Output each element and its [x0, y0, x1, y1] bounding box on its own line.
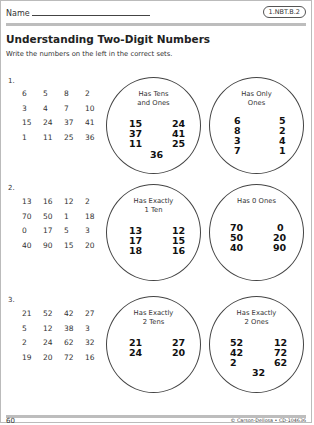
grid-cell: 5 — [22, 324, 43, 335]
problem-number-2: 2. — [8, 184, 15, 192]
grid-cell: 27 — [85, 309, 106, 320]
grid-cell: 36 — [85, 133, 106, 144]
name-line[interactable] — [32, 8, 150, 16]
set-circle-exactly-1-ten[interactable]: Has Exactly 1 Ten 13 17 18 12 15 16 — [106, 184, 201, 281]
grid-cell: 15 — [22, 118, 43, 129]
grid-cell: 13 — [22, 197, 43, 208]
set-number: 20 — [172, 348, 185, 358]
grid-cell: 16 — [43, 197, 64, 208]
grid-cell: 70 — [22, 212, 43, 223]
set-number: 25 — [172, 139, 185, 149]
grid-cell: 20 — [43, 353, 64, 364]
grid-cell: 32 — [85, 338, 106, 349]
page-title: Understanding Two-Digit Numbers — [6, 33, 210, 45]
grid-cell: 6 — [22, 89, 43, 100]
grid-cell: 3 — [22, 104, 43, 115]
standard-badge: 1.NBT.B.2 — [263, 6, 306, 18]
set-number: 36 — [150, 150, 163, 160]
problem-number-3: 3. — [8, 296, 15, 304]
set-circle-only-ones[interactable]: Has Only Ones 6 8 3 7 5 2 4 1 — [209, 77, 304, 174]
grid-cell: 2 — [85, 89, 106, 100]
set-label: Has Exactly 1 Ten — [107, 197, 200, 215]
set-circle-0-ones[interactable]: Has 0 Ones 70 50 40 0 20 90 — [209, 184, 304, 281]
grid-cell: 40 — [22, 241, 43, 252]
set-number: 2 — [230, 358, 237, 368]
grid-cell: 62 — [64, 338, 85, 349]
grid-cell: 2 — [22, 338, 43, 349]
set-number: 16 — [172, 246, 185, 256]
grid-cell: 5 — [64, 226, 85, 237]
grid-cell: 0 — [22, 226, 43, 237]
grid-cell: 25 — [64, 133, 85, 144]
grid-cell: 50 — [43, 212, 64, 223]
grid-cell: 20 — [85, 241, 106, 252]
grid-cell: 5 — [43, 89, 64, 100]
grid-cell: 38 — [64, 324, 85, 335]
set-number: 62 — [274, 358, 287, 368]
grid-cell: 1 — [64, 212, 85, 223]
grid-cell: 11 — [43, 133, 64, 144]
name-field[interactable]: Name — [6, 8, 150, 18]
set-label: Has Exactly 2 Tens — [107, 309, 200, 327]
set-label: Has Exactly 2 Ones — [210, 309, 303, 327]
grid-cell: 19 — [22, 353, 43, 364]
set-circle-exactly-2-ones[interactable]: Has Exactly 2 Ones 52 42 2 12 72 62 32 — [209, 296, 304, 393]
grid-cell: 37 — [64, 118, 85, 129]
set-circle-tens-and-ones[interactable]: Has Tens and Ones 15 37 11 24 41 25 36 — [106, 77, 201, 174]
number-grid-2: 13 16 12 2 70 50 1 18 0 17 5 3 40 90 15 … — [22, 197, 106, 251]
set-number: 24 — [129, 348, 142, 358]
grid-cell: 15 — [64, 241, 85, 252]
copyright: © Carson-Dellosa • CD-104636 — [231, 418, 306, 423]
grid-cell: 18 — [85, 212, 106, 223]
set-label: Has 0 Ones — [210, 197, 303, 206]
grid-cell: 24 — [43, 118, 64, 129]
set-number: 90 — [273, 243, 286, 253]
grid-cell: 21 — [22, 309, 43, 320]
instructions: Write the numbers on the left in the cor… — [6, 50, 172, 58]
set-number: 7 — [234, 146, 241, 156]
number-grid-3: 21 52 42 27 5 12 38 3 2 24 62 32 19 20 7… — [22, 309, 106, 363]
set-number: 32 — [252, 368, 265, 378]
set-number: 11 — [129, 139, 142, 149]
grid-cell: 41 — [85, 118, 106, 129]
grid-cell: 2 — [85, 197, 106, 208]
grid-cell: 52 — [43, 309, 64, 320]
grid-cell: 17 — [43, 226, 64, 237]
grid-cell: 4 — [43, 104, 64, 115]
grid-cell: 72 — [64, 353, 85, 364]
problem-number-1: 1. — [8, 77, 15, 85]
set-label: Has Tens and Ones — [107, 90, 200, 108]
name-label: Name — [6, 9, 30, 18]
grid-cell: 1 — [22, 133, 43, 144]
set-number: 18 — [129, 246, 142, 256]
grid-cell: 12 — [64, 197, 85, 208]
grid-cell: 3 — [85, 324, 106, 335]
number-grid-1: 6 5 8 2 3 4 7 10 15 24 37 41 1 11 25 36 — [22, 89, 106, 143]
set-label: Has Only Ones — [210, 90, 303, 108]
page-number: 60 — [6, 417, 15, 425]
grid-cell: 8 — [64, 89, 85, 100]
set-number: 40 — [230, 243, 243, 253]
header-divider — [6, 23, 306, 26]
set-number: 1 — [279, 146, 286, 156]
grid-cell: 7 — [64, 104, 85, 115]
grid-cell: 24 — [43, 338, 64, 349]
grid-cell: 10 — [85, 104, 106, 115]
grid-cell: 16 — [85, 353, 106, 364]
grid-cell: 3 — [85, 226, 106, 237]
grid-cell: 12 — [43, 324, 64, 335]
grid-cell: 42 — [64, 309, 85, 320]
grid-cell: 90 — [43, 241, 64, 252]
set-circle-exactly-2-tens[interactable]: Has Exactly 2 Tens 21 24 27 20 — [106, 296, 201, 393]
